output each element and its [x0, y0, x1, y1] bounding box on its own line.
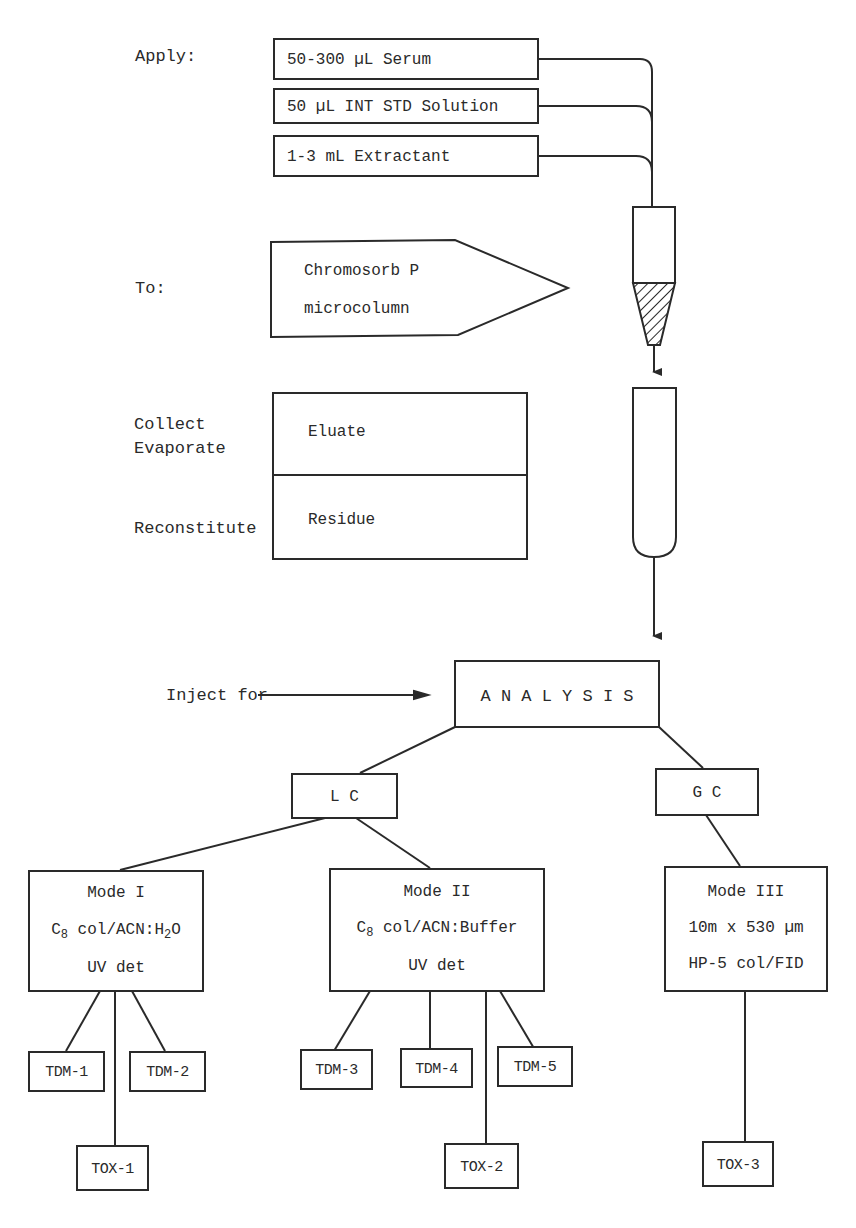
feed-line-int-std [538, 106, 652, 122]
evaporate-label: Evaporate [134, 440, 226, 457]
mode-1-column: C8 col/ACN:H2O [30, 922, 202, 941]
mode-2-c: C [357, 919, 367, 937]
chromosorb-line2: microcolumn [304, 301, 410, 317]
mode-2-column: C8 col/ACN:Buffer [331, 920, 543, 939]
eluate-residue-box: Eluate Residue [272, 392, 528, 560]
lc-box: L C [291, 773, 398, 819]
eluate-residue-divider [274, 474, 526, 476]
tdm-2-box: TDM-2 [129, 1051, 206, 1092]
feed-line-serum [538, 59, 652, 207]
analysis-box: A N A L Y S I S [454, 660, 660, 728]
mode-3-column: 10m x 530 µm [666, 920, 826, 936]
tdm-1-label: TDM-1 [30, 1065, 103, 1080]
chromosorb-line1: Chromosorb P [304, 263, 419, 279]
eluate-label: Eluate [308, 424, 366, 440]
reagent-int-std: 50 µL INT STD Solution [287, 99, 498, 115]
mode-3-name: Mode III [666, 884, 826, 900]
gc-box: G C [655, 768, 759, 816]
collect-label: Collect [134, 416, 205, 433]
collection-tube [633, 388, 676, 557]
tox-1-box: TOX-1 [76, 1145, 149, 1191]
tox-3-box: TOX-3 [702, 1141, 774, 1187]
tdm-3-label: TDM-3 [302, 1063, 371, 1078]
inject-label: Inject for [166, 687, 268, 704]
mode-3-detector: HP-5 col/FID [666, 956, 826, 972]
tdm-5-box: TDM-5 [497, 1046, 573, 1087]
tox-2-label: TOX-2 [446, 1160, 517, 1175]
tdm-4-box: TDM-4 [400, 1048, 473, 1088]
feed-line-extractant [538, 156, 652, 172]
tox-1-label: TOX-1 [78, 1162, 147, 1177]
reagent-serum: 50-300 µL Serum [287, 52, 431, 68]
microcolumn-packing [633, 283, 675, 345]
mode-3-box: Mode III 10m x 530 µm HP-5 col/FID [664, 866, 828, 992]
microcolumn-body [633, 207, 675, 283]
tox-3-label: TOX-3 [704, 1158, 772, 1173]
analysis-title: A N A L Y S I S [456, 688, 658, 705]
mode-1-o: O [171, 921, 181, 939]
residue-label: Residue [308, 512, 375, 528]
mode-1-mobile-phase: col/ACN:H [68, 921, 164, 939]
mode-1-name: Mode I [30, 885, 202, 901]
mode-2-name: Mode II [331, 884, 543, 900]
reagent-box-int-std: 50 µL INT STD Solution [273, 88, 539, 124]
mode-2-mobile-phase: col/ACN:Buffer [373, 919, 517, 937]
tdm-2-label: TDM-2 [131, 1065, 204, 1080]
tox-2-box: TOX-2 [444, 1143, 519, 1189]
reconstitute-label: Reconstitute [134, 520, 256, 537]
connector-lines [0, 0, 856, 1228]
mode-1-detector: UV det [30, 960, 202, 976]
mode-1-c-sub: 8 [61, 928, 68, 942]
gc-label: G C [657, 785, 757, 801]
to-label: To: [135, 280, 166, 297]
mode-1-box: Mode I C8 col/ACN:H2O UV det [28, 870, 204, 992]
lc-label: L C [293, 789, 396, 805]
mode-2-detector: UV det [331, 958, 543, 974]
reagent-extractant: 1-3 mL Extractant [287, 149, 450, 165]
tdm-3-box: TDM-3 [300, 1049, 373, 1090]
mode-1-c: C [51, 921, 61, 939]
apply-label: Apply: [135, 48, 196, 65]
tdm-4-label: TDM-4 [402, 1062, 471, 1077]
tdm-5-label: TDM-5 [499, 1060, 571, 1075]
mode-2-box: Mode II C8 col/ACN:Buffer UV det [329, 868, 545, 992]
reagent-box-serum: 50-300 µL Serum [273, 38, 539, 80]
tdm-1-box: TDM-1 [28, 1051, 105, 1092]
reagent-box-extractant: 1-3 mL Extractant [273, 135, 539, 177]
chromosorb-box-outline [271, 240, 568, 337]
